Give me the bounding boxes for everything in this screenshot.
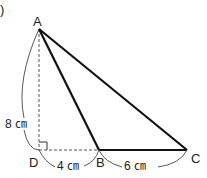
right-angle-marker bbox=[39, 142, 47, 150]
triangle-diagram: ) A D B C 8 ㎝ 4 ㎝ 6 ㎝ bbox=[0, 0, 207, 178]
vertex-label-B: B bbox=[96, 155, 105, 170]
arc-AD-upper bbox=[22, 29, 39, 118]
measure-AD: 8 ㎝ bbox=[5, 117, 27, 131]
vertex-label-A: A bbox=[33, 14, 42, 29]
problem-number: ) bbox=[0, 2, 4, 17]
vertex-label-D: D bbox=[29, 155, 38, 170]
vertex-label-C: C bbox=[191, 151, 200, 166]
measure-BC: 6 ㎝ bbox=[124, 159, 146, 173]
arc-BC-right bbox=[158, 150, 187, 167]
measure-DB: 4 ㎝ bbox=[57, 159, 79, 173]
arc-AD-lower bbox=[24, 130, 39, 150]
arc-DB-left bbox=[39, 150, 55, 167]
side-AB bbox=[39, 29, 99, 150]
side-AC bbox=[39, 29, 187, 150]
